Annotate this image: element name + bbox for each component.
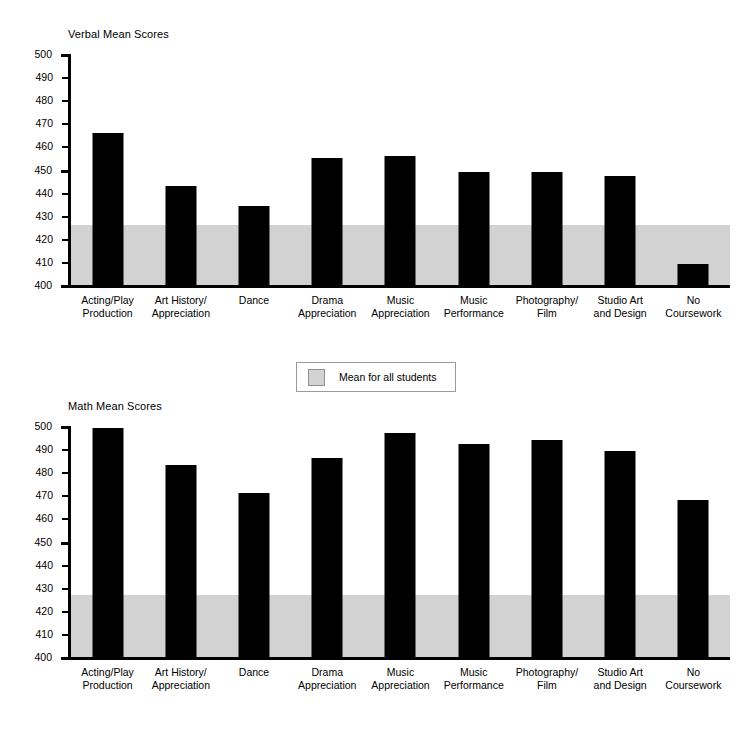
verbal-y-tick-label-410: 410 [35,257,53,268]
verbal-y-tick-label-440: 440 [35,187,53,198]
legend: Mean for all students [296,362,456,392]
math-y-tick-460: 460 [62,518,68,520]
math-y-tick-label-400: 400 [34,652,52,663]
math-y-tick-400: 400 [61,657,68,660]
bar-slot [291,54,364,285]
verbal-plot-area: 500490480470460450440430420410400 [68,54,730,288]
bar-slot [364,426,437,657]
math-y-tick-label-500: 500 [34,421,52,432]
bar [239,206,270,285]
bar [239,493,270,657]
verbal-y-tick-460: 460 [62,146,68,148]
verbal-y-tick-410: 410 [62,262,68,264]
bar-slot [584,426,657,657]
bar-slot [437,426,510,657]
verbal-y-tick-label-500: 500 [34,49,52,60]
math-y-tick-label-490: 490 [35,444,53,455]
bar-slot [437,54,510,285]
verbal-y-tick-480: 480 [62,100,68,102]
bar-slot [144,426,217,657]
bar-slot [364,54,437,285]
verbal-y-tick-label-470: 470 [35,118,53,129]
verbal-y-tick-label-480: 480 [35,95,53,106]
verbal-y-tick-400: 400 [61,285,68,288]
bar-slot [657,54,730,285]
bar [165,465,196,657]
math-x-axis [68,657,730,660]
verbal-y-tick-450: 450 [61,170,68,173]
math-y-tick-label-450: 450 [34,536,52,547]
verbal-y-tick-label-490: 490 [35,72,53,83]
math-y-tick-450: 450 [61,542,68,545]
math-y-tick-500: 500 [61,426,68,429]
bar-slot [584,54,657,285]
math-y-tick-470: 470 [62,495,68,497]
math-y-tick-420: 420 [62,611,68,613]
bar [92,133,123,285]
mean-band-swatch-icon [308,369,325,386]
category-label: No Coursework [651,666,736,691]
math-y-tick-label-460: 460 [35,513,53,524]
math-plot-area: 500490480470460450440430420410400 [68,426,730,660]
bar-slot [657,426,730,657]
verbal-y-tick-label-450: 450 [34,164,52,175]
verbal-y-tick-label-420: 420 [35,234,53,245]
bar [458,172,489,285]
math-y-tick-label-410: 410 [35,629,53,640]
math-y-tick-410: 410 [62,634,68,636]
math-y-tick-label-480: 480 [35,467,53,478]
verbal-chart-title: Verbal Mean Scores [68,28,169,40]
verbal-scores-panel: Verbal Mean Scores 500490480470460450440… [0,28,755,358]
verbal-y-tick-label-400: 400 [34,280,52,291]
bar [385,433,416,657]
chart-page: Verbal Mean Scores 500490480470460450440… [0,0,755,739]
bar [605,176,636,285]
bar-slot [71,54,144,285]
bar [678,264,709,285]
verbal-y-tick-490: 490 [62,77,68,79]
bar-slot [144,54,217,285]
math-y-tick-label-430: 430 [35,582,53,593]
verbal-y-tick-470: 470 [62,123,68,125]
math-chart-title: Math Mean Scores [68,400,162,412]
category-label: No Coursework [651,294,736,319]
bar [531,172,562,285]
bar [165,186,196,285]
math-scores-panel: Math Mean Scores 50049048047046045044043… [0,400,755,730]
verbal-y-tick-label-460: 460 [35,141,53,152]
math-category-labels: Acting/Play ProductionArt History/ Appre… [71,666,733,706]
math-y-tick-430: 430 [62,588,68,590]
math-bar-group [71,426,730,657]
bar-slot [217,54,290,285]
math-y-tick-label-440: 440 [35,559,53,570]
math-y-tick-480: 480 [62,472,68,474]
verbal-y-tick-440: 440 [62,193,68,195]
bar [312,458,343,657]
verbal-y-tick-label-430: 430 [35,210,53,221]
bar-slot [217,426,290,657]
verbal-category-labels: Acting/Play ProductionArt History/ Appre… [71,294,733,334]
verbal-bar-group [71,54,730,285]
bar [312,158,343,285]
bar [458,444,489,657]
bar-slot [510,54,583,285]
verbal-y-tick-420: 420 [62,239,68,241]
bar [385,156,416,285]
bar [605,451,636,657]
math-y-tick-440: 440 [62,565,68,567]
math-y-tick-490: 490 [62,449,68,451]
math-y-tick-label-470: 470 [35,490,53,501]
math-y-tick-label-420: 420 [35,606,53,617]
verbal-y-tick-430: 430 [62,216,68,218]
bar [92,428,123,657]
legend-label: Mean for all students [339,371,436,383]
bar-slot [71,426,144,657]
bar [531,440,562,657]
bar-slot [291,426,364,657]
bar-slot [510,426,583,657]
verbal-x-axis [68,285,730,288]
bar [678,500,709,657]
verbal-y-tick-500: 500 [61,54,68,57]
